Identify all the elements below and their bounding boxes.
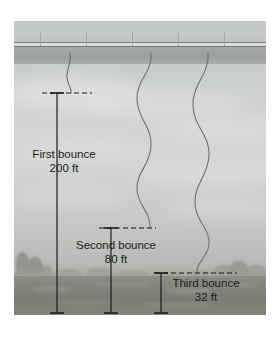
overpass-rail bbox=[14, 32, 266, 42]
cloud bbox=[14, 189, 124, 207]
first-bounce-name: First bounce bbox=[20, 148, 108, 162]
third-bounce-label: Third bounce 32 ft bbox=[163, 277, 249, 304]
third-bounce-name: Third bounce bbox=[163, 277, 249, 291]
overpass-post bbox=[40, 32, 41, 46]
overpass-beam bbox=[14, 47, 266, 64]
first-bounce-value: 200 ft bbox=[20, 162, 108, 176]
ground-haze bbox=[14, 266, 266, 276]
overpass-post bbox=[178, 32, 179, 46]
overpass-post bbox=[86, 32, 87, 46]
overpass-deck bbox=[14, 32, 266, 64]
overpass-post bbox=[224, 32, 225, 46]
second-bounce-value: 80 ft bbox=[64, 253, 168, 267]
overpass-post bbox=[132, 32, 133, 46]
third-bounce-value: 32 ft bbox=[163, 291, 249, 305]
second-bounce-label: Second bounce 80 ft bbox=[64, 239, 168, 266]
second-bounce-name: Second bounce bbox=[64, 239, 168, 253]
cloud bbox=[74, 91, 244, 117]
first-bounce-label: First bounce 200 ft bbox=[20, 148, 108, 175]
bungee-bounce-figure: First bounce 200 ft Second bounce 80 ft … bbox=[0, 0, 280, 362]
